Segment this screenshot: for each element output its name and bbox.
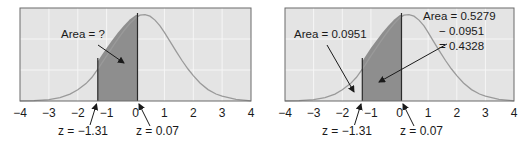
chart-panel-left: Area = ? −4 −3 −2 −1 0 1 2 3 4 z = −1.31… (0, 0, 265, 142)
svg-text:−4: −4 (13, 106, 27, 120)
z-low-label: z = −1.31 (322, 124, 372, 138)
svg-text:0: 0 (132, 106, 139, 120)
svg-text:3: 3 (219, 106, 226, 120)
area-diff-line2: − 0.0951 (439, 25, 484, 37)
z-low-arrow (355, 104, 362, 125)
svg-text:−3: −3 (42, 106, 56, 120)
svg-text:4: 4 (511, 106, 518, 120)
normal-curve-chart-right: Area = 0.0951 Area = 0.5279 − 0.0951 = 0… (265, 0, 530, 142)
z-high-label: z = 0.07 (136, 124, 179, 138)
svg-text:1: 1 (161, 106, 168, 120)
z-high-arrow (139, 104, 150, 126)
svg-text:−2: −2 (71, 106, 85, 120)
chart-panel-right: Area = 0.0951 Area = 0.5279 − 0.0951 = 0… (265, 0, 530, 142)
area-diff-line3: = 0.4328 (439, 40, 484, 52)
z-low-arrow (90, 104, 97, 125)
svg-text:2: 2 (190, 106, 197, 120)
svg-text:−1: −1 (364, 106, 378, 120)
svg-text:1: 1 (425, 106, 432, 120)
svg-text:−1: −1 (100, 106, 114, 120)
z-low-label: z = −1.31 (58, 124, 108, 138)
normal-curve-chart-left: Area = ? −4 −3 −2 −1 0 1 2 3 4 z = −1.31… (0, 0, 265, 142)
svg-text:2: 2 (453, 106, 460, 120)
svg-text:−4: −4 (278, 106, 292, 120)
svg-text:4: 4 (248, 106, 255, 120)
svg-text:3: 3 (482, 106, 489, 120)
x-axis-ticks: −4 −3 −2 −1 0 1 2 3 4 (13, 106, 255, 120)
z-high-label: z = 0.07 (400, 124, 443, 138)
svg-text:0: 0 (396, 106, 403, 120)
svg-text:−2: −2 (335, 106, 349, 120)
x-axis-ticks: −4 −3 −2 −1 0 1 2 3 4 (278, 106, 518, 120)
tail-area-label: Area = 0.0951 (294, 28, 367, 40)
z-high-arrow (403, 104, 414, 126)
area-unknown-label: Area = ? (61, 28, 105, 40)
svg-text:−3: −3 (307, 106, 321, 120)
area-diff-line1: Area = 0.5279 (423, 10, 496, 22)
